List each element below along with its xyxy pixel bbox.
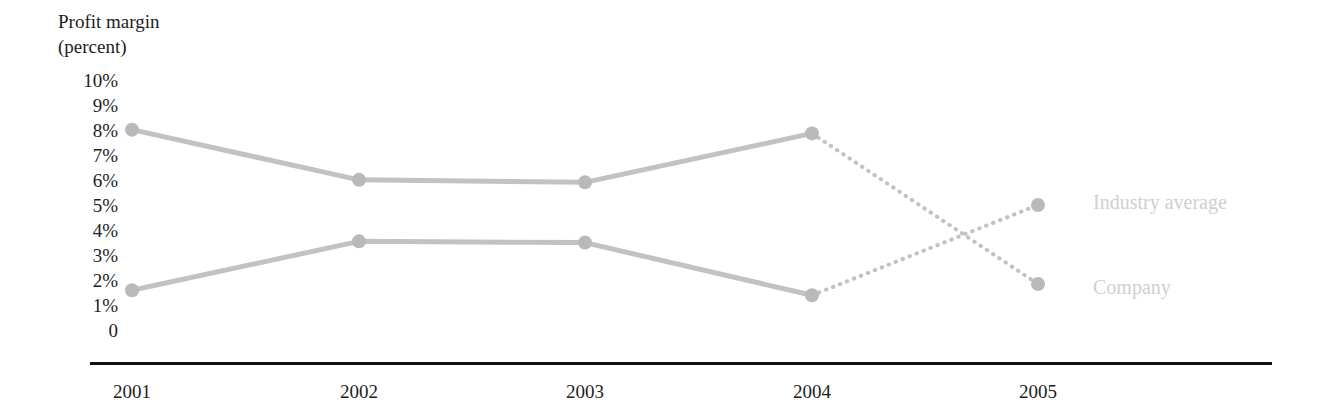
x-tick-2003: 2003 — [525, 381, 645, 403]
data-point-marker — [125, 123, 139, 137]
data-point-marker — [125, 283, 139, 297]
chart-page: Profit margin (percent) 10% 9% 8% 7% 6% … — [0, 0, 1330, 411]
x-tick-2005: 2005 — [978, 381, 1098, 403]
data-point-marker — [1031, 277, 1045, 291]
data-point-marker — [805, 126, 819, 140]
x-axis-line — [90, 362, 1272, 365]
x-tick-2001: 2001 — [72, 381, 192, 403]
x-tick-2004: 2004 — [752, 381, 872, 403]
x-tick-2002: 2002 — [299, 381, 419, 403]
series-line-solid-0 — [132, 130, 812, 183]
series-line-dotted-0 — [812, 133, 1038, 284]
data-point-marker — [578, 175, 592, 189]
series-label-company: Company — [1093, 276, 1171, 299]
data-point-marker — [352, 173, 366, 187]
series-line-solid-1 — [132, 241, 812, 295]
series-line-dotted-1 — [812, 205, 1038, 295]
data-point-marker — [352, 234, 366, 248]
series-label-industry-average: Industry average — [1093, 191, 1227, 214]
data-point-marker — [578, 236, 592, 250]
data-point-marker — [1031, 198, 1045, 212]
data-point-marker — [805, 288, 819, 302]
